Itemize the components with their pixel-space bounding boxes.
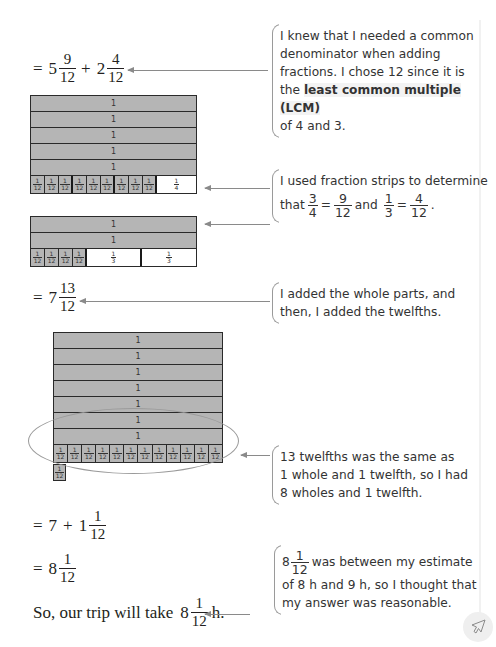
denominator: 12 [47,257,57,265]
callout-line: fractions. I chose 12 since it is [280,63,480,81]
denominator: 3 [166,257,172,265]
whole-strip: 1 [53,364,223,380]
whole-strip: 1 [30,143,197,159]
callout-line: the least common multiple (LCM) [280,81,480,117]
mixed-whole: 7 [49,288,58,308]
denominator: 12 [334,205,352,219]
fraction-strips-four-twelfths: 1 1 112 112 112 112 13 13 [30,216,197,267]
arrow-icon [205,614,250,615]
denominator: 3 [384,205,394,219]
numerator: 4 [111,52,121,68]
denominator: 4 [308,205,318,219]
conclusion-sentence: So, our trip will take 8 112 h. [33,596,224,629]
denominator: 12 [47,184,57,192]
parts-strip: 112 112 112 112 112 112 112 112 112 14 [30,175,197,194]
denominator: 12 [74,257,84,265]
pointer-arrow-icon[interactable] [463,612,493,642]
fraction: 912 [59,52,76,85]
unit-label: h. [212,603,225,623]
callout-regroup: 13 twelfths was the same as 1 whole and … [272,448,480,502]
mixed-whole: 5 [49,59,58,79]
callout-line: I added the whole parts, and [280,285,480,303]
numerator: 1 [93,509,103,525]
arrow-icon [205,224,270,225]
numerator: 9 [63,52,73,68]
callout-text: the [280,83,300,97]
denominator: 12 [59,68,76,85]
twelfth-cell: 112 [87,176,101,193]
highlight-ellipse [28,408,239,474]
twelfth-cell: 112 [73,176,87,193]
pointer-arrow-glyph [469,618,487,636]
twelfth-cell: 112 [73,249,87,266]
equals-sign: = [33,559,43,579]
arrow-icon [80,301,270,302]
callout-lcm: I knew that I needed a common denominato… [272,27,480,135]
arrow-icon [205,188,270,189]
equals-sign: = [397,196,407,214]
fraction: 1312 [59,281,76,314]
denominator: 12 [144,184,154,192]
mixed-whole: 1 [79,516,88,536]
plus-sign: + [63,516,73,536]
mixed-whole: 8 [282,553,290,571]
arrow-icon [241,455,270,456]
fraction: 112 [59,552,76,585]
denominator: 3 [111,257,117,265]
twelfth-cell: 112 [143,176,157,193]
callout-text: that [280,196,305,214]
fraction: 412 [410,192,428,219]
equals-sign: = [321,196,331,214]
denominator: 12 [33,184,43,192]
twelfth-cell: 112 [59,249,73,266]
twelfth-cell: 112 [115,176,129,193]
callout-line: 8 wholes and 1 twelfth. [280,484,480,502]
callout-line: 1 whole and 1 twelfth, so I had [280,466,480,484]
denominator: 12 [60,184,70,192]
whole-strip: 1 [30,127,197,143]
numerator: 1 [295,549,305,562]
callout-line: I knew that I needed a common [280,27,480,45]
fraction: 912 [334,192,352,219]
fraction: 412 [107,52,124,85]
twelfth-cell: 112 [59,176,73,193]
denominator: 12 [89,525,106,542]
callout-line: I used fraction strips to determine [280,172,490,190]
equation-step-1: = 5 912 + 2 412 [30,52,126,85]
numerator: 1 [63,552,73,568]
plus-sign: + [81,59,91,79]
conclusion-text: So, our trip will take [33,603,173,623]
whole-strip: 1 [30,232,197,248]
twelfth-cell: 112 [129,176,143,193]
callout-reasonable: 8 112 was between my estimate of 8 h and… [274,548,482,612]
twelfth-cell: 112 [45,249,59,266]
mixed-whole: 8 [180,603,189,623]
whole-number: 7 [49,516,58,536]
callout-line: that 34 = 912 and 13 = 412 . [280,190,490,220]
period: . [431,196,435,214]
twelfth-cell: 112 [31,249,45,266]
whole-strip: 1 [53,380,223,396]
whole-strip: 1 [30,159,197,175]
quarter-cell: 14 [157,176,196,193]
equals-sign: = [33,59,43,79]
fraction-strips-nine-twelfths: 1 1 1 1 1 112 112 112 112 112 112 112 11… [30,95,197,194]
twelfth-cell: 112 [101,176,115,193]
callout-line: my answer was reasonable. [282,594,482,612]
whole-strip: 1 [53,332,223,348]
numerator: 13 [59,281,76,297]
fraction: 13 [384,192,394,219]
denominator: 12 [33,257,43,265]
whole-strip: 1 [53,348,223,364]
denominator: 12 [75,184,85,192]
twelfth-cell: 112 [45,176,59,193]
arrow-icon [128,70,268,71]
denominator: 12 [102,184,112,192]
third-cell: 13 [142,249,196,266]
numerator: 1 [384,192,394,205]
equals-sign: = [33,288,43,308]
callout-line: 8 112 was between my estimate [282,548,482,576]
callout-text: was between my estimate [312,553,473,571]
denominator: 12 [131,184,141,192]
callout-line: 13 twelfths was the same as [280,448,480,466]
